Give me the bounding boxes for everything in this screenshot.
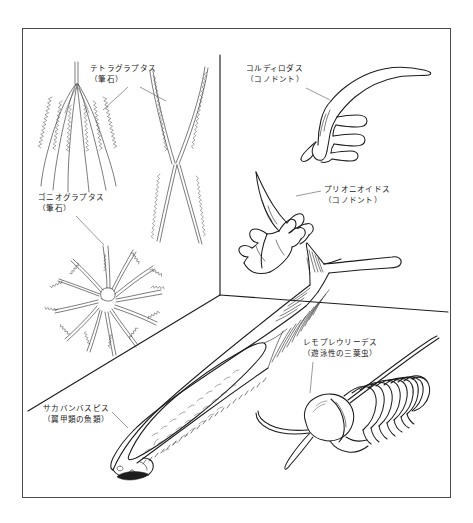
label-cordylodus: コルディロダス （コノドント） <box>246 64 304 85</box>
label-sacabambaspis: サカバンバスピス （翼甲類の魚類） <box>43 404 109 425</box>
illustration-canvas <box>0 0 473 523</box>
fossil-illustration-figure: テトラグラプタス （筆石） ゴニオグラプタス （筆石） コルディロダス （コノド… <box>0 0 473 523</box>
label-goniograptus-qualifier: （筆石） <box>38 204 104 215</box>
label-tetragraptus-name: テトラグラプタス <box>90 64 156 73</box>
label-sacabambaspis-qualifier: （翼甲類の魚類） <box>43 415 109 426</box>
specimen-tetragraptus-x <box>150 67 208 244</box>
label-prioniodus-qualifier: （コノドント） <box>324 196 390 207</box>
label-remopleurides-name: レモプレウリーデス <box>303 338 378 347</box>
label-cordylodus-name: コルディロダス <box>246 64 303 73</box>
label-tetragraptus-qualifier: （筆石） <box>90 75 156 86</box>
label-tetragraptus: テトラグラプタス （筆石） <box>90 64 156 85</box>
specimen-prioniodus <box>239 172 313 274</box>
label-cordylodus-qualifier: （コノドント） <box>246 75 304 86</box>
label-prioniodus-name: プリオニオイドス <box>324 185 390 194</box>
label-sacabambaspis-name: サカバンバスピス <box>43 404 109 413</box>
specimen-sacabambaspis <box>111 243 401 480</box>
label-goniograptus-name: ゴニオグラプタス <box>38 193 104 202</box>
specimen-cordylodus <box>301 67 431 162</box>
label-remopleurides-qualifier: （遊泳性の三葉虫） <box>303 349 378 360</box>
label-goniograptus: ゴニオグラプタス （筆石） <box>38 193 104 214</box>
label-prioniodus: プリオニオイドス （コノドント） <box>324 185 390 206</box>
label-remopleurides: レモプレウリーデス （遊泳性の三葉虫） <box>303 338 378 359</box>
